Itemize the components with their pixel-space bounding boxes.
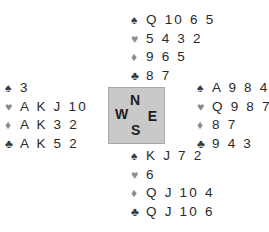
south-clubs-cards: Q J 10 6 [146, 204, 215, 219]
east-spades-row: ♠A 9 8 4 [197, 79, 269, 98]
east-diamonds-row: ♦8 7 [197, 116, 269, 135]
south-diamonds-row: ♦Q J 10 4 [131, 184, 215, 203]
club-icon: ♣ [5, 135, 20, 154]
west-spades-cards: 3 [20, 80, 30, 95]
west-diamonds-cards: A K 3 2 [20, 117, 79, 132]
west-hearts-row: ♥A K J 10 [5, 98, 88, 117]
west-clubs-row: ♣A K 5 2 [5, 135, 88, 154]
north-diamonds-cards: 9 6 5 [146, 49, 187, 64]
east-diamonds-cards: 8 7 [212, 117, 237, 132]
compass-east-label: E [148, 108, 157, 124]
compass-south-label: S [131, 122, 140, 138]
east-hearts-cards: Q 9 8 7 [212, 99, 269, 114]
west-hand: ♠3 ♥A K J 10 ♦A K 3 2 ♣A K 5 2 [5, 79, 88, 153]
club-icon: ♣ [131, 67, 146, 86]
heart-icon: ♥ [131, 166, 146, 185]
compass-west-label: W [115, 106, 128, 122]
east-clubs-cards: 9 4 3 [212, 136, 253, 151]
east-hand: ♠A 9 8 4 ♥Q 9 8 7 ♦8 7 ♣9 4 3 [197, 79, 269, 153]
south-hearts-cards: 6 [146, 167, 156, 182]
south-spades-cards: K J 7 2 [146, 148, 203, 163]
north-spades-cards: Q 10 6 5 [146, 12, 215, 27]
diamond-icon: ♦ [197, 116, 212, 135]
north-hearts-cards: 5 4 3 2 [146, 31, 203, 46]
heart-icon: ♥ [5, 98, 20, 117]
south-diamonds-cards: Q J 10 4 [146, 185, 215, 200]
north-clubs-cards: 8 7 [146, 68, 171, 83]
south-hand: ♠K J 7 2 ♥6 ♦Q J 10 4 ♣Q J 10 6 [131, 147, 215, 221]
diamond-icon: ♦ [5, 116, 20, 135]
north-hand: ♠Q 10 6 5 ♥5 4 3 2 ♦9 6 5 ♣8 7 [131, 11, 215, 85]
west-diamonds-row: ♦A K 3 2 [5, 116, 88, 135]
south-hearts-row: ♥6 [131, 166, 215, 185]
heart-icon: ♥ [131, 30, 146, 49]
north-diamonds-row: ♦9 6 5 [131, 48, 215, 67]
compass-north-label: N [130, 92, 140, 108]
diamond-icon: ♦ [131, 48, 146, 67]
south-spades-row: ♠K J 7 2 [131, 147, 215, 166]
spade-icon: ♠ [131, 11, 146, 30]
club-icon: ♣ [131, 203, 146, 222]
west-hearts-cards: A K J 10 [20, 99, 88, 114]
spade-icon: ♠ [5, 79, 20, 98]
east-spades-cards: A 9 8 4 [212, 80, 269, 95]
south-clubs-row: ♣Q J 10 6 [131, 203, 215, 222]
spade-icon: ♠ [131, 147, 146, 166]
north-spades-row: ♠Q 10 6 5 [131, 11, 215, 30]
diamond-icon: ♦ [131, 184, 146, 203]
compass-box: N W E S [108, 87, 165, 144]
east-hearts-row: ♥Q 9 8 7 [197, 98, 269, 117]
heart-icon: ♥ [197, 98, 212, 117]
west-clubs-cards: A K 5 2 [20, 136, 79, 151]
spade-icon: ♠ [197, 79, 212, 98]
north-hearts-row: ♥5 4 3 2 [131, 30, 215, 49]
west-spades-row: ♠3 [5, 79, 88, 98]
